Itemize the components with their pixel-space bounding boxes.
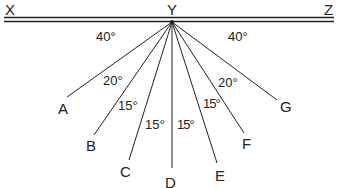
angle-fyg: 20° (218, 75, 238, 90)
angle-gyz: 40° (228, 29, 248, 44)
ray-ye (172, 22, 217, 163)
label-f: F (242, 135, 251, 152)
label-x: X (5, 1, 15, 18)
angle-cyd: 15° (145, 117, 165, 132)
label-y: Y (167, 1, 177, 18)
angle-byc: 15° (118, 98, 138, 113)
label-z: Z (324, 1, 333, 18)
angle-diagram: X Y Z A B C D E F G 40° 20° 15° 15° 15° … (0, 0, 338, 188)
label-g: G (280, 98, 292, 115)
label-c: C (120, 163, 131, 180)
vertex-y-dot (170, 20, 174, 24)
label-b: B (86, 137, 96, 154)
label-e: E (215, 167, 225, 184)
angle-dye: 15° (177, 117, 194, 132)
angle-xya: 40° (96, 29, 116, 44)
angle-eyf: 15° (203, 96, 220, 111)
label-d: D (165, 174, 176, 188)
angle-ayb: 20° (103, 73, 123, 88)
label-a: A (58, 100, 68, 117)
ray-yc (129, 22, 172, 160)
